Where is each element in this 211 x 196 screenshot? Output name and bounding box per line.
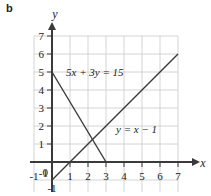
- x-tick-label-3: 3: [103, 170, 109, 182]
- graph-figure: b: [0, 0, 211, 196]
- y-tick-label-2: 2: [39, 120, 45, 132]
- tick-marks: [47, 36, 178, 167]
- y-tick-label-5: 5: [39, 66, 45, 78]
- equation-label-line1: 5x + 3y = 15: [66, 66, 124, 78]
- x-tick-label-6: 6: [157, 170, 163, 182]
- grid-lines: [34, 36, 178, 192]
- y-tick-labels: 7 6 5 4 3 2 1 -1: [39, 30, 49, 179]
- y-tick-label-7: 7: [39, 30, 45, 42]
- y-tick-label-3: 3: [39, 102, 45, 114]
- y-axis-label: y: [51, 7, 58, 21]
- x-tick-label-2: 2: [85, 170, 91, 182]
- x-tick-label-neg1: -1: [29, 170, 38, 182]
- x-tick-label-5: 5: [139, 170, 145, 182]
- line-5x-3y-15: [52, 72, 106, 162]
- coordinate-plane: 7 6 5 4 3 2 1 -1 0 -1 1 2 3 4 5 6 7 -1 x…: [0, 0, 211, 196]
- y-tick-label-4: 4: [39, 84, 45, 96]
- x-tick-label-7: 7: [175, 170, 181, 182]
- equation-label-line2: y = x − 1: [115, 123, 157, 135]
- y-tick-label-6: 6: [39, 48, 45, 60]
- origin-label: 0: [43, 166, 49, 178]
- y-axis-neg1-label: -1: [47, 182, 56, 194]
- y-tick-label-1: 1: [39, 138, 45, 150]
- y-axis-arrow: [48, 22, 56, 30]
- x-tick-label-1: 1: [67, 170, 73, 182]
- x-axis-arrow: [192, 158, 200, 166]
- x-axis-label: x: [199, 156, 206, 170]
- x-tick-label-4: 4: [121, 170, 127, 182]
- axes: [30, 22, 200, 192]
